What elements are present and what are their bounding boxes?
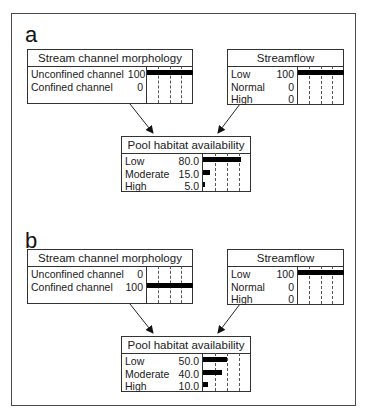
state-row: Low100 [231,268,294,281]
belief-bar [298,270,344,275]
node-pool-habitat-availability-a[interactable]: Pool habitat availability Low80.0 Modera… [121,136,251,192]
arrow-streamflow-to-pool-a [218,104,240,133]
belief-bar [298,70,344,75]
node-title: Stream channel morphology [28,250,192,267]
node-title: Streamflow [228,250,343,267]
state-row: High0 [231,293,294,306]
node-title: Pool habitat availability [122,137,250,154]
node-streamflow-b[interactable]: Streamflow Low100 Normal0 High0 [227,249,344,305]
state-row: Moderate40.0 [125,368,199,381]
panel-label-a: a [25,24,37,46]
belief-bars [202,353,250,391]
belief-bars [297,266,343,304]
belief-bars [297,66,343,104]
state-row: High5.0 [125,180,199,193]
state-row: Confined channel100 [31,281,143,294]
node-title: Stream channel morphology [28,50,192,67]
arrow-morphology-to-pool-b [130,304,153,333]
node-stream-channel-morphology-a[interactable]: Stream channel morphology Unconfined cha… [27,49,193,104]
belief-bars [146,66,192,103]
belief-bars [146,266,192,303]
belief-bar [147,70,193,75]
belief-bar [203,157,241,162]
state-row: High10.0 [125,380,199,393]
state-row: Unconfined channel0 [31,268,143,281]
node-stream-channel-morphology-b[interactable]: Stream channel morphology Unconfined cha… [27,249,193,304]
arrow-streamflow-to-pool-b [218,304,240,333]
node-pool-habitat-availability-b[interactable]: Pool habitat availability Low50.0 Modera… [121,336,251,392]
belief-bar [147,283,193,288]
state-row: Normal0 [231,281,294,294]
state-row: Moderate15.0 [125,168,199,181]
state-row: Low100 [231,68,294,81]
state-row: Normal0 [231,81,294,94]
node-streamflow-a[interactable]: Streamflow Low100 Normal0 High0 [227,49,344,105]
belief-bar [203,182,205,187]
state-row: Low50.0 [125,355,199,368]
belief-bars [202,153,250,191]
belief-bar [203,382,208,387]
state-row: Confined channel0 [31,81,143,94]
belief-bar [203,370,222,375]
belief-bar [203,357,227,362]
state-row: Unconfined channel100 [31,68,143,81]
node-title: Pool habitat availability [122,337,250,354]
state-row: Low80.0 [125,155,199,168]
arrow-morphology-to-pool-a [130,104,153,133]
belief-bar [203,170,210,175]
node-title: Streamflow [228,50,343,67]
state-row: High0 [231,93,294,106]
